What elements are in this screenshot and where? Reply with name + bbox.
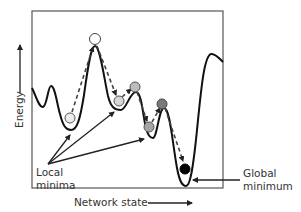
global-minimum-label-line1: Global <box>243 167 277 179</box>
local-minima-label-line2: minima <box>36 179 75 191</box>
energy-landscape-diagram: Local minima Global minimum Network stat… <box>0 0 301 212</box>
x-axis-label: Network state <box>74 196 148 208</box>
ball-first-local-min <box>65 113 75 123</box>
ball-global-min <box>180 164 190 174</box>
ball-second-local-min <box>114 96 124 106</box>
y-axis-label: Energy <box>13 91 25 128</box>
global-minimum-label-line2: minimum <box>243 180 293 192</box>
ball-third-local-min <box>144 122 154 132</box>
energy-curve <box>32 46 223 186</box>
ball-small-peak <box>130 82 140 92</box>
ball-third-peak <box>157 99 167 109</box>
local-minima-label-line1: Local <box>36 166 63 178</box>
ball-start-peak <box>90 34 101 45</box>
